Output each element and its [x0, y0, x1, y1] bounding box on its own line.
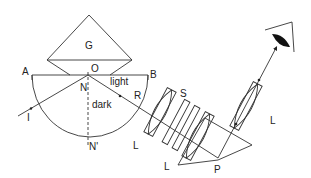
eye-icon — [265, 22, 294, 52]
label-b: B — [150, 69, 157, 80]
label-o: O — [91, 63, 99, 74]
label-dark: dark — [92, 99, 112, 110]
lens-1 — [143, 87, 177, 137]
semicircle-prism — [32, 75, 148, 137]
label-a: A — [22, 66, 29, 77]
refractometer-diagram: G O A B N N' I R light dark L S L P L — [0, 0, 311, 178]
label-i: I — [27, 112, 30, 123]
label-lens-1: L — [133, 140, 139, 151]
lens-3 — [229, 81, 263, 131]
lens-2 — [181, 111, 215, 161]
ray-to-eye — [218, 48, 276, 158]
label-n-prime: N' — [89, 141, 98, 152]
label-p: P — [214, 164, 221, 175]
label-r: R — [134, 90, 141, 101]
incident-ray — [18, 75, 88, 116]
label-g: G — [85, 40, 93, 51]
label-s: S — [180, 88, 187, 99]
label-n: N — [80, 82, 87, 93]
label-light: light — [110, 76, 129, 87]
label-lens-2: L — [164, 161, 170, 172]
label-lens-3: L — [270, 115, 276, 126]
